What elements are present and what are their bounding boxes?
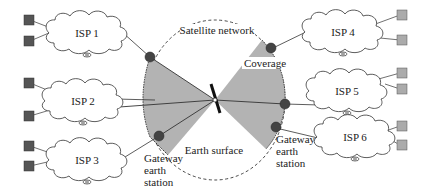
svg-text:ISP 1: ISP 1 — [75, 27, 99, 39]
host-isp6-b — [397, 140, 407, 150]
isp-cloud-5: ISP 5 — [306, 69, 387, 115]
gateway-label-right: Gateway earth station — [276, 133, 316, 169]
gateway-node-isp5 — [280, 99, 290, 109]
coverage-left-wedge — [143, 57, 215, 155]
svg-text:Gateway: Gateway — [144, 152, 184, 164]
host-isp4-b — [397, 35, 407, 45]
svg-text:ISP 4: ISP 4 — [331, 26, 355, 38]
isp-cloud-1: ISP 1 — [46, 11, 127, 57]
svg-text:ISP 2: ISP 2 — [71, 95, 95, 107]
svg-text:station: station — [144, 176, 174, 188]
isp-cloud-2: ISP 2 — [42, 79, 123, 125]
host-isp5-a — [397, 68, 407, 78]
host-isp3-b — [24, 161, 34, 171]
host-isp1-a — [24, 15, 34, 25]
host-isp3-a — [24, 141, 34, 151]
svg-text:earth: earth — [276, 145, 298, 157]
gateway-node-isp1 — [145, 52, 155, 62]
host-isp2-b — [24, 111, 34, 121]
host-isp2-a — [24, 78, 34, 88]
host-isp6-a — [397, 121, 407, 131]
host-isp4-a — [397, 10, 407, 20]
svg-text:station: station — [276, 157, 306, 169]
gateway-node-isp6 — [271, 122, 281, 132]
svg-text:ISP 6: ISP 6 — [343, 131, 367, 143]
svg-text:earth: earth — [144, 164, 166, 176]
isp-cloud-3: ISP 3 — [46, 138, 127, 184]
host-isp1-b — [24, 36, 34, 46]
svg-text:ISP 5: ISP 5 — [335, 85, 359, 97]
satellite-network-label: Satellite network — [180, 24, 255, 36]
svg-text:Gateway: Gateway — [276, 133, 316, 145]
gateway-node-isp4 — [266, 43, 276, 53]
isp-cloud-6: ISP 6 — [314, 115, 395, 161]
svg-text:ISP 3: ISP 3 — [75, 154, 99, 166]
isp-cloud-4: ISP 4 — [302, 10, 383, 56]
host-isp5-b — [397, 84, 407, 94]
coverage-label: Coverage — [244, 57, 286, 69]
satellite-network-diagram: ISP 1 ISP 2 ISP 3 ISP 4 ISP 5 ISP 6 — [0, 0, 430, 195]
earth-surface-label: Earth surface — [185, 144, 243, 156]
gateway-node-isp3 — [154, 131, 164, 141]
gateway-label-left: Gateway earth station — [144, 152, 184, 188]
